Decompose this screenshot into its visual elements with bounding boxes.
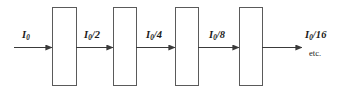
polarizer-3	[176, 8, 199, 86]
label-i0: I0	[22, 30, 30, 41]
polarizer-2	[114, 8, 137, 86]
diagram-canvas	[0, 0, 339, 93]
label-i0-16: I0/16	[305, 30, 327, 41]
label-i0-2-divisor: /2	[92, 29, 100, 40]
label-i0-2-subscript: 0	[88, 34, 92, 42]
label-i0-2: I0/2	[84, 30, 100, 41]
label-i0-4: I0/4	[146, 30, 162, 41]
label-i0-4-divisor: /4	[154, 29, 162, 40]
polarizer-1	[53, 8, 77, 86]
label-i0-8-subscript: 0	[213, 34, 217, 42]
polarizer-intensity-diagram: I0I0/2I0/4I0/8I0/16 etc.	[0, 0, 339, 93]
label-i0-8-divisor: /8	[217, 29, 225, 40]
label-i0-8: I0/8	[209, 30, 225, 41]
label-i0-4-subscript: 0	[150, 34, 154, 42]
etc-label: etc.	[309, 49, 321, 58]
label-i0-subscript: 0	[26, 34, 30, 42]
label-i0-16-subscript: 0	[309, 34, 313, 42]
polarizer-4	[240, 8, 263, 86]
label-i0-16-divisor: /16	[313, 29, 327, 40]
polarizer-boxes	[53, 8, 263, 86]
